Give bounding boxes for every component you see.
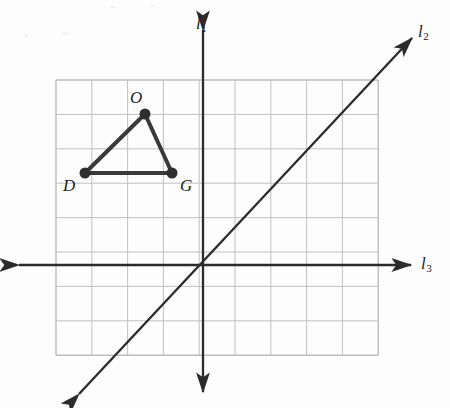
line-l2 <box>79 38 412 394</box>
line-label-l1: l1 <box>196 14 207 34</box>
coordinate-grid <box>56 80 378 355</box>
figure-canvas <box>0 0 450 408</box>
vertex-point-d <box>80 168 91 179</box>
geometry-figure: ODGl1l2l3 <box>0 0 450 408</box>
line-label-subscript: 1 <box>201 22 207 34</box>
vertex-point-g <box>167 168 178 179</box>
vertex-label-o: O <box>130 88 142 108</box>
vertex-label-d: D <box>63 176 75 196</box>
line-label-l2: l2 <box>418 22 429 42</box>
line-label-l3: l3 <box>421 254 432 274</box>
triangle-dog <box>80 109 178 179</box>
triangle-outline <box>85 114 172 173</box>
lines-group <box>19 30 412 394</box>
line-label-subscript: 2 <box>423 30 429 42</box>
vertex-label-g: G <box>180 176 192 196</box>
vertex-point-o <box>140 109 151 120</box>
line-label-subscript: 3 <box>426 262 432 274</box>
